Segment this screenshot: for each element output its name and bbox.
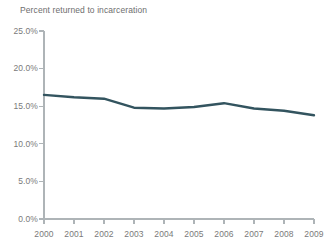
x-axis-ticks — [44, 219, 314, 224]
chart-container: Percent returned to incarceration 25.0% … — [0, 0, 333, 246]
data-series-line — [44, 95, 314, 115]
plot-area — [0, 0, 333, 246]
axis-group — [44, 31, 314, 219]
y-axis-ticks — [39, 31, 44, 219]
